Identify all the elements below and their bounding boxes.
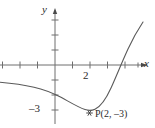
y-tick-label-neg3: –3	[29, 103, 40, 114]
graph-figure: y x 2 –3 P(2, –3)	[0, 0, 155, 128]
x-axis-label: x	[144, 58, 149, 69]
y-axis-arrow-icon	[53, 8, 57, 14]
point-annotation-label: P(2, –3)	[95, 109, 127, 119]
minimum-point-marker-icon	[87, 111, 93, 116]
x-tick-label-2: 2	[83, 70, 89, 81]
curve-path	[0, 22, 143, 110]
y-axis-label: y	[42, 4, 47, 15]
plot-canvas	[0, 0, 155, 128]
